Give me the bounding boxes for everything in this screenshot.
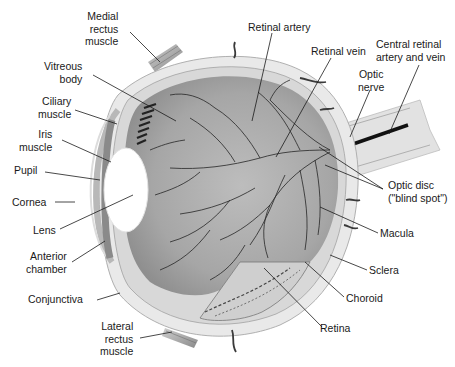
label-anterior-chamber: Anterior chamber xyxy=(26,250,67,275)
label-lateral-rectus-muscle: Lateral rectus muscle xyxy=(100,320,133,358)
label-choroid: Choroid xyxy=(346,292,383,305)
label-retinal-artery: Retinal artery xyxy=(248,21,310,34)
label-conjunctiva: Conjunctiva xyxy=(28,293,83,306)
label-pupil: Pupil xyxy=(14,164,37,177)
label-optic-nerve: Optic nerve xyxy=(358,68,384,93)
eye-diagram: Medial rectus muscle Vitreous body Cilia… xyxy=(0,0,455,367)
label-sclera: Sclera xyxy=(369,264,399,277)
label-vitreous-body: Vitreous body xyxy=(44,60,82,85)
label-cornea: Cornea xyxy=(12,196,46,209)
label-retinal-vein: Retinal vein xyxy=(311,45,366,58)
label-central-retinal-artery-vein: Central retinal artery and vein xyxy=(376,38,445,63)
label-ciliary-muscle: Ciliary muscle xyxy=(38,95,71,120)
label-retina: Retina xyxy=(320,322,350,335)
label-lens: Lens xyxy=(33,224,56,237)
lens-art xyxy=(104,148,148,232)
label-macula: Macula xyxy=(380,227,414,240)
label-optic-disc: Optic disc ("blind spot") xyxy=(388,179,447,204)
label-iris-muscle: Iris muscle xyxy=(19,128,52,153)
label-medial-rectus-muscle: Medial rectus muscle xyxy=(85,10,118,48)
